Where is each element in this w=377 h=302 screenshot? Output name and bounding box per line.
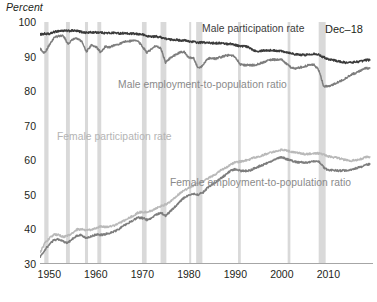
series-label-male-employment-population-ratio: Male employment-to-population ratio xyxy=(118,79,287,90)
labor-force-participation-chart: Percent 10090807060504030 19501960197019… xyxy=(0,0,377,302)
recession-band xyxy=(196,22,202,264)
x-axis-tick-labels: 1950196019701980199020002010 xyxy=(40,266,373,288)
recession-band xyxy=(85,22,88,264)
recession-bands xyxy=(44,22,325,264)
series-label-female-participation: Female participation rate xyxy=(57,131,172,142)
x-axis-tick-label: 2010 xyxy=(317,268,340,280)
series-canvas xyxy=(40,22,373,264)
x-axis-tick-label: 2000 xyxy=(270,268,293,280)
y-axis-tick-label: 80 xyxy=(2,85,36,97)
x-axis-tick-label: 1990 xyxy=(224,268,247,280)
y-axis-tick-label: 70 xyxy=(2,120,36,132)
axis-lines xyxy=(40,264,373,265)
recession-band xyxy=(44,22,48,264)
x-axis-tick-label: 1950 xyxy=(38,268,61,280)
recession-band xyxy=(161,22,167,264)
series-label-male-participation: Male participation rate xyxy=(202,23,304,34)
y-axis-tick-label: 30 xyxy=(2,258,36,270)
plot-area xyxy=(40,22,373,264)
x-axis-tick-label: 1980 xyxy=(177,268,200,280)
y-axis-tick-label: 90 xyxy=(2,51,36,63)
recession-band xyxy=(66,22,70,264)
y-axis-tick-label: 50 xyxy=(2,189,36,201)
y-axis-tick-label: 100 xyxy=(2,16,36,28)
plot-inner xyxy=(40,22,373,264)
recession-band xyxy=(288,22,291,264)
date-stamp-label: Dec–18 xyxy=(325,23,363,35)
x-axis-tick-label: 1960 xyxy=(84,268,107,280)
series-label-female-employment-population-ratio: Female employment-to-population ratio xyxy=(170,177,351,188)
y-axis-tick-labels: 10090807060504030 xyxy=(0,22,36,264)
recession-band xyxy=(142,22,147,264)
y-axis-unit-label: Percent xyxy=(6,1,43,13)
y-axis-tick-label: 60 xyxy=(2,154,36,166)
recession-band xyxy=(238,22,241,264)
y-axis-tick-label: 40 xyxy=(2,223,36,235)
x-axis-tick-label: 1970 xyxy=(131,268,154,280)
